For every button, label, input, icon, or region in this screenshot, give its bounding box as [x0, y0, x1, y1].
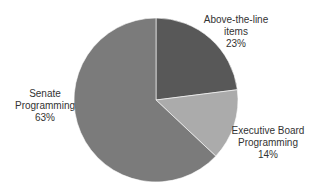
- label-percent: 23%: [204, 38, 268, 50]
- label-line: Executive Board: [232, 125, 305, 137]
- label-percent: 14%: [232, 149, 305, 161]
- label-line: Programming: [232, 137, 305, 149]
- label-line: Above-the-line: [204, 14, 268, 26]
- label-percent: 63%: [15, 112, 75, 124]
- label-senate-programming: Senate Programming 63%: [15, 88, 75, 124]
- label-line: Programming: [15, 100, 75, 112]
- label-above-the-line-items: Above-the-line items 23%: [204, 14, 268, 50]
- label-executive-board-programming: Executive Board Programming 14%: [232, 125, 305, 161]
- label-line: Senate: [15, 88, 75, 100]
- label-line: items: [204, 26, 268, 38]
